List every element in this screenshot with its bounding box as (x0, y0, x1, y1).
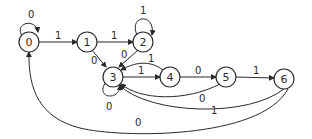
edge-label-0-0: 0 (28, 9, 34, 20)
svg-text:2: 2 (140, 36, 147, 49)
svg-text:6: 6 (281, 73, 288, 86)
edge-label-4-5: 0 (195, 65, 201, 76)
edge-label-3-4: 1 (138, 65, 144, 76)
edge-label-2-3: 0 (121, 49, 127, 60)
svg-text:3: 3 (110, 71, 117, 84)
edge-5-6 (236, 77, 274, 78)
svg-text:4: 4 (167, 71, 174, 84)
edge-label-5-3: 0 (199, 93, 205, 104)
node-4: 4 (160, 67, 180, 87)
edge-label-1-3: 0 (91, 55, 97, 66)
svg-text:1: 1 (84, 36, 91, 49)
svg-text:5: 5 (223, 71, 230, 84)
svg-text:0: 0 (26, 36, 33, 49)
state-diagram: 0 1 1 0 1 0 0 1 1 0 1 0 (0, 0, 312, 139)
edge-label-3-3: 0 (106, 101, 112, 112)
node-5: 5 (216, 67, 236, 87)
edge-6-0 (29, 52, 288, 134)
node-2: 2 (133, 32, 153, 52)
edge-label-6-3: 1 (211, 105, 217, 116)
edge-label-2-2: 1 (140, 5, 146, 16)
node-1: 1 (77, 32, 97, 52)
edge-label-1-2: 1 (111, 30, 117, 41)
node-0: 0 (19, 32, 39, 52)
edges: 0 1 1 0 1 0 0 1 1 0 1 0 (20, 5, 288, 134)
edge-label-6-0: 0 (135, 117, 141, 128)
edge-label-0-1: 1 (55, 30, 61, 41)
node-3: 3 (103, 67, 123, 87)
node-6: 6 (274, 69, 294, 89)
edge-label-5-6: 1 (253, 65, 259, 76)
edge-label-4-3: 1 (148, 53, 154, 64)
